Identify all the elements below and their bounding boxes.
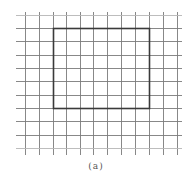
horizontal-grid-lines: [16, 16, 182, 149]
vertical-grid-lines: [26, 12, 178, 155]
figure-caption: (a): [0, 161, 192, 171]
grid-figure: [0, 0, 192, 183]
